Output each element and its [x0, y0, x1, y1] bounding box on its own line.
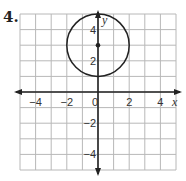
y-axis-label: y — [101, 13, 108, 27]
y-tick-label: 2 — [90, 55, 96, 67]
x-tick-label: −4 — [29, 96, 42, 108]
coordinate-plane: −4−202442−2−4 x y — [0, 0, 186, 181]
y-tick-label: 4 — [90, 24, 96, 36]
x-tick-label: 0 — [92, 96, 98, 108]
center-point — [96, 43, 101, 48]
y-tick-label: −2 — [83, 117, 96, 129]
y-axis-down-arrow — [95, 168, 101, 176]
x-axis-label: x — [171, 95, 178, 109]
x-tick-label: 2 — [126, 96, 132, 108]
y-tick-label: −4 — [83, 148, 96, 160]
x-tick-label: −2 — [61, 96, 74, 108]
x-tick-label: 4 — [157, 96, 163, 108]
x-axis-left-arrow — [14, 89, 22, 95]
axes — [14, 10, 182, 176]
